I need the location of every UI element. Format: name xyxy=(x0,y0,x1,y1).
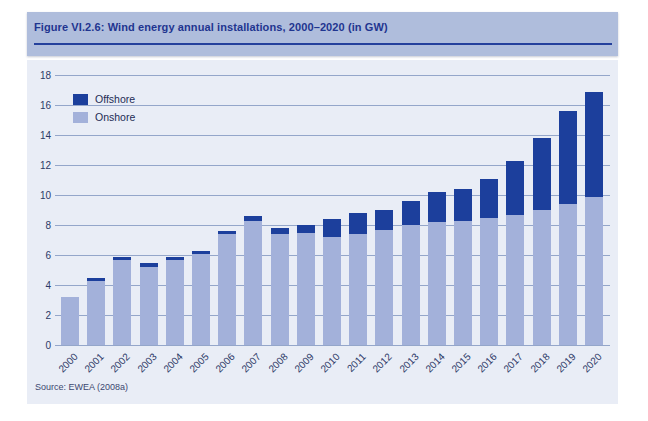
y-tick-label-2: 2 xyxy=(27,310,51,322)
bar-2014-onshore xyxy=(428,222,446,345)
bar-2018-offshore xyxy=(533,138,551,210)
y-tick-label-18: 18 xyxy=(27,70,51,82)
bar-2015 xyxy=(454,60,472,345)
bar-2013-offshore xyxy=(402,201,420,225)
bar-2014-offshore xyxy=(428,192,446,222)
bar-2019-offshore xyxy=(559,111,577,204)
bar-2015-offshore xyxy=(454,189,472,221)
bar-2005-onshore xyxy=(192,254,210,346)
bar-2012 xyxy=(375,60,393,345)
y-tick-label-10: 10 xyxy=(27,190,51,202)
bar-2011-offshore xyxy=(349,213,367,234)
title-underline-rule xyxy=(34,43,612,45)
y-tick-label-8: 8 xyxy=(27,220,51,232)
bar-2020-onshore xyxy=(585,197,603,346)
y-tick-label-0: 0 xyxy=(27,340,51,352)
bar-2016-offshore xyxy=(480,179,498,218)
bar-2011-onshore xyxy=(349,234,367,345)
bar-2013 xyxy=(402,60,420,345)
bar-2017 xyxy=(506,60,524,345)
y-tick-label-12: 12 xyxy=(27,160,51,172)
bar-2006 xyxy=(218,60,236,345)
bar-2015-onshore xyxy=(454,221,472,346)
onshore-swatch-icon xyxy=(73,112,88,123)
bar-2008 xyxy=(271,60,289,345)
legend-label-onshore: Onshore xyxy=(95,111,135,123)
legend-label-offshore: Offshore xyxy=(95,93,135,105)
bar-2000-onshore xyxy=(61,297,79,345)
gridline-0 xyxy=(55,345,610,346)
bar-2009 xyxy=(297,60,315,345)
bar-2002-onshore xyxy=(113,260,131,346)
y-tick-label-14: 14 xyxy=(27,130,51,142)
bar-2017-offshore xyxy=(506,161,524,215)
bar-2016-onshore xyxy=(480,218,498,346)
bar-2012-onshore xyxy=(375,230,393,346)
bar-2019-onshore xyxy=(559,204,577,345)
bar-2004 xyxy=(166,60,184,345)
bar-2011 xyxy=(349,60,367,345)
y-tick-label-6: 6 xyxy=(27,250,51,262)
bar-2004-onshore xyxy=(166,260,184,346)
y-tick-label-16: 16 xyxy=(27,100,51,112)
chart-panel: 0246810121416182000200120022003200420052… xyxy=(27,60,618,404)
bar-2007 xyxy=(244,60,262,345)
bar-2010 xyxy=(323,60,341,345)
page: Figure VI.2.6: Wind energy annual instal… xyxy=(0,0,648,421)
bar-2007-onshore xyxy=(244,221,262,346)
bar-2017-onshore xyxy=(506,215,524,346)
bar-2013-onshore xyxy=(402,225,420,345)
bar-2005 xyxy=(192,60,210,345)
bar-2008-onshore xyxy=(271,234,289,345)
bar-2020 xyxy=(585,60,603,345)
bar-2010-offshore xyxy=(323,219,341,237)
bar-2003 xyxy=(140,60,158,345)
source-note: Source: EWEA (2008a) xyxy=(35,382,128,392)
bar-2012-offshore xyxy=(375,210,393,230)
bar-2010-onshore xyxy=(323,237,341,345)
bar-2009-offshore xyxy=(297,225,315,233)
y-tick-label-4: 4 xyxy=(27,280,51,292)
bar-2014 xyxy=(428,60,446,345)
figure-title: Figure VI.2.6: Wind energy annual instal… xyxy=(34,21,388,33)
bar-2001-onshore xyxy=(87,281,105,346)
chart-legend: Offshore Onshore xyxy=(73,93,135,129)
bar-2019 xyxy=(559,60,577,345)
bar-2020-offshore xyxy=(585,92,603,197)
bar-2018 xyxy=(533,60,551,345)
bar-2003-onshore xyxy=(140,267,158,345)
bar-2016 xyxy=(480,60,498,345)
offshore-swatch-icon xyxy=(73,94,88,105)
legend-row-offshore: Offshore xyxy=(73,93,135,105)
legend-row-onshore: Onshore xyxy=(73,111,135,123)
figure-title-bar: Figure VI.2.6: Wind energy annual instal… xyxy=(27,12,618,56)
bar-2006-onshore xyxy=(218,234,236,345)
bar-2018-onshore xyxy=(533,210,551,345)
bar-2009-onshore xyxy=(297,233,315,346)
